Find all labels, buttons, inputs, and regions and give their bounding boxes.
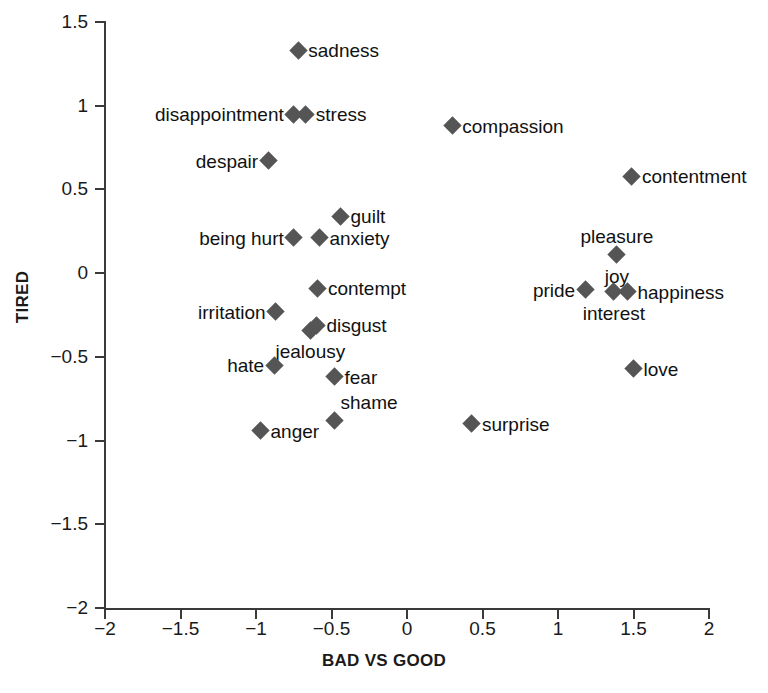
point-label: pride — [533, 281, 575, 300]
diamond-marker-icon — [309, 279, 327, 297]
diamond-marker-icon — [251, 421, 269, 439]
y-tick-label: 0.5 — [62, 178, 88, 200]
diamond-marker-icon — [285, 229, 303, 247]
point-label: shame — [341, 393, 398, 412]
point-label: surprise — [482, 415, 550, 434]
point-label: guilt — [351, 207, 386, 226]
point-label: love — [644, 360, 679, 379]
y-axis-line — [104, 21, 106, 610]
y-tick — [95, 105, 104, 107]
x-tick-label: −1.5 — [162, 618, 200, 640]
x-tick-label: 1.5 — [620, 618, 646, 640]
diamond-marker-icon — [463, 415, 481, 433]
diamond-marker-icon — [289, 41, 307, 59]
x-axis-title: BAD VS GOOD — [0, 651, 768, 671]
point-label: interest — [583, 304, 645, 323]
x-tick-label: 0 — [402, 618, 413, 640]
point-label: disgust — [326, 316, 386, 335]
point-label: stress — [316, 105, 367, 124]
point-label: anger — [271, 422, 320, 441]
y-tick — [95, 440, 104, 442]
diamond-marker-icon — [608, 246, 626, 264]
y-tick-label: −1.5 — [50, 513, 88, 535]
diamond-marker-icon — [576, 281, 594, 299]
point-label: hate — [227, 356, 264, 375]
y-tick-label: 1.5 — [62, 11, 88, 33]
diamond-marker-icon — [443, 117, 461, 135]
y-tick — [95, 523, 104, 525]
point-label: being hurt — [199, 229, 284, 248]
point-label: pleasure — [580, 227, 653, 246]
point-label: jealousy — [276, 342, 346, 361]
point-label: happiness — [637, 283, 724, 302]
y-tick — [95, 607, 104, 609]
x-tick-label: 2 — [704, 618, 715, 640]
x-tick-label: −1 — [245, 618, 267, 640]
point-label: despair — [196, 152, 258, 171]
x-tick-label: 0.5 — [469, 618, 495, 640]
point-label: contentment — [642, 167, 747, 186]
point-label: anxiety — [329, 229, 389, 248]
diamond-marker-icon — [266, 302, 284, 320]
diamond-marker-icon — [325, 411, 343, 429]
point-label: compassion — [462, 117, 563, 136]
diamond-marker-icon — [297, 105, 315, 123]
diamond-marker-icon — [624, 359, 642, 377]
y-tick-label: −2 — [66, 597, 88, 619]
y-axis-title: TIRED — [13, 252, 33, 342]
diamond-marker-icon — [310, 229, 328, 247]
point-label: sadness — [308, 41, 379, 60]
diamond-marker-icon — [331, 207, 349, 225]
y-tick-label: −0.5 — [50, 346, 88, 368]
y-tick-label: −1 — [66, 430, 88, 452]
scatter-plot: 1.510.50−0.5−1−1.5−2 −2−1.5−1−0.500.511.… — [0, 0, 768, 693]
diamond-marker-icon — [325, 368, 343, 386]
diamond-marker-icon — [259, 152, 277, 170]
point-label: disappointment — [155, 105, 284, 124]
x-tick-label: −0.5 — [313, 618, 351, 640]
point-label: fear — [345, 368, 378, 387]
y-tick-label: 1 — [77, 95, 88, 117]
y-tick — [95, 21, 104, 23]
y-tick-label: 0 — [77, 262, 88, 284]
x-tick-label: −2 — [94, 618, 116, 640]
point-label: contempt — [328, 279, 406, 298]
diamond-marker-icon — [623, 167, 641, 185]
y-tick — [95, 356, 104, 358]
y-tick — [95, 272, 104, 274]
point-label: irritation — [198, 303, 266, 322]
y-tick — [95, 188, 104, 190]
x-tick-label: 1 — [553, 618, 564, 640]
